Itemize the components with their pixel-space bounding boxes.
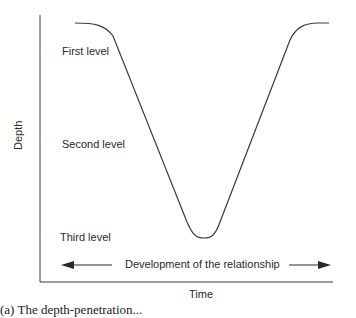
relationship-curve	[75, 23, 329, 238]
development-arrow-label: Development of the relationship	[125, 258, 280, 270]
y-axis-label: Depth	[12, 121, 24, 150]
left-arrow-head-icon	[61, 261, 74, 269]
level-label-second: Second level	[62, 138, 125, 150]
figure-caption: (a) The depth-penetration...	[0, 302, 142, 318]
level-label-third: Third level	[60, 231, 111, 243]
x-axis-label: Time	[189, 288, 213, 300]
right-arrow-head-icon	[318, 261, 331, 269]
level-label-first: First level	[62, 45, 109, 57]
